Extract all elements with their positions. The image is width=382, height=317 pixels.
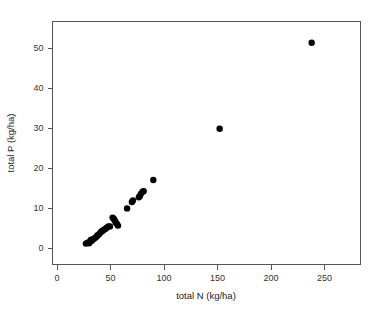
data-point — [124, 205, 130, 211]
x-tick-label: 250 — [317, 273, 332, 283]
x-tick-label: 150 — [210, 273, 225, 283]
y-tick-label: 30 — [33, 123, 43, 133]
chart-figure: 050100150200250 01020304050 total N (kg/… — [0, 0, 382, 317]
y-tick-label: 20 — [33, 163, 43, 173]
x-axis-title: total N (kg/ha) — [176, 290, 236, 301]
plot-frame — [53, 22, 361, 265]
y-axis-ticks: 01020304050 — [33, 43, 52, 253]
y-axis-title: total P (kg/ha) — [5, 114, 16, 173]
x-tick-label: 50 — [105, 273, 115, 283]
x-tick-label: 100 — [156, 273, 171, 283]
y-tick-label: 10 — [33, 203, 43, 213]
data-point — [130, 197, 136, 203]
x-axis-ticks: 050100150200250 — [54, 265, 332, 283]
y-tick-label: 40 — [33, 83, 43, 93]
data-point — [115, 222, 121, 228]
data-point — [216, 126, 222, 132]
data-point — [308, 40, 314, 46]
scatter-plot: 050100150200250 01020304050 total N (kg/… — [0, 0, 382, 317]
data-point — [140, 188, 146, 194]
y-tick-label: 0 — [38, 243, 43, 253]
data-point — [150, 177, 156, 183]
y-tick-label: 50 — [33, 43, 43, 53]
data-points-group — [83, 40, 315, 247]
data-point — [107, 223, 113, 229]
x-tick-label: 200 — [263, 273, 278, 283]
x-tick-label: 0 — [54, 273, 59, 283]
